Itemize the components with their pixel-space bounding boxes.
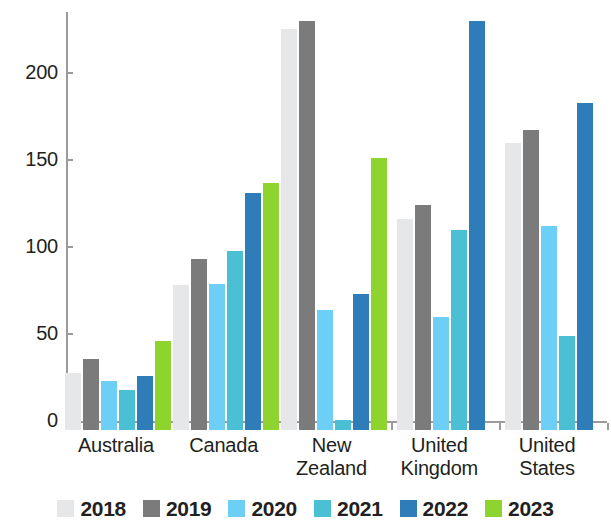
bar-group xyxy=(173,20,279,430)
bar[interactable] xyxy=(415,205,431,430)
bar-group-bars xyxy=(505,20,593,430)
legend-item[interactable]: 2022 xyxy=(400,498,469,519)
category-label: Canada xyxy=(170,434,278,457)
y-axis-tick-label-text: 0 xyxy=(2,410,58,430)
y-axis-tick-label-text: 100 xyxy=(2,236,58,256)
bar[interactable] xyxy=(299,21,315,430)
bar[interactable] xyxy=(371,158,387,430)
x-axis-tick xyxy=(607,423,609,430)
bar[interactable] xyxy=(245,193,261,430)
bar-group xyxy=(397,20,485,430)
bar-group xyxy=(65,20,171,430)
bar[interactable] xyxy=(101,381,117,430)
bar-group xyxy=(281,20,387,430)
category-label: United States xyxy=(493,434,601,480)
plot-area: 050100150200 xyxy=(0,0,611,430)
bar[interactable] xyxy=(469,21,485,430)
legend-swatch-icon xyxy=(143,500,160,517)
legend-label: 2022 xyxy=(423,498,469,519)
legend-item[interactable]: 2018 xyxy=(57,498,126,519)
bar[interactable] xyxy=(209,284,225,430)
bar[interactable] xyxy=(281,29,297,430)
y-axis-tick-label: 100 xyxy=(0,236,58,256)
y-axis-tick-label-text: 50 xyxy=(2,323,58,343)
bar[interactable] xyxy=(191,259,207,430)
category-label: Australia xyxy=(62,434,170,457)
legend-swatch-icon xyxy=(228,500,245,517)
x-axis-tick xyxy=(391,423,393,430)
bar-chart: 050100150200 AustraliaCanadaNew ZealandU… xyxy=(0,0,611,532)
y-axis-tick-label: 200 xyxy=(0,62,58,82)
legend-label: 2018 xyxy=(80,498,126,519)
bar-group-bars xyxy=(65,20,171,430)
chart-legend: 201820192020202120222023 xyxy=(0,498,611,519)
bar[interactable] xyxy=(559,336,575,430)
bar[interactable] xyxy=(137,376,153,430)
bar[interactable] xyxy=(173,285,189,430)
legend-label: 2019 xyxy=(166,498,212,519)
bar[interactable] xyxy=(263,183,279,430)
y-axis-tick-label-text: 150 xyxy=(2,149,58,169)
bar[interactable] xyxy=(227,251,243,430)
bar[interactable] xyxy=(541,226,557,430)
legend-item[interactable]: 2021 xyxy=(314,498,383,519)
bar[interactable] xyxy=(335,420,351,430)
y-axis-tick-label: 0 xyxy=(0,410,58,430)
category-label: United Kingdom xyxy=(385,434,493,480)
y-axis-tick-label: 50 xyxy=(0,323,58,343)
bar-group-bars xyxy=(173,20,279,430)
bar[interactable] xyxy=(83,359,99,430)
legend-item[interactable]: 2020 xyxy=(228,498,297,519)
category-label: New Zealand xyxy=(278,434,386,480)
bar[interactable] xyxy=(353,294,369,430)
bar-group-bars xyxy=(281,20,387,430)
bar[interactable] xyxy=(523,130,539,430)
y-axis-tick-label-text: 200 xyxy=(2,62,58,82)
legend-swatch-icon xyxy=(314,500,331,517)
legend-swatch-icon xyxy=(400,500,417,517)
legend-item[interactable]: 2023 xyxy=(485,498,554,519)
bar[interactable] xyxy=(155,341,171,430)
bar-group xyxy=(505,20,593,430)
bar[interactable] xyxy=(119,390,135,430)
legend-swatch-icon xyxy=(57,500,74,517)
bar[interactable] xyxy=(397,219,413,430)
y-axis-tick-label: 150 xyxy=(0,149,58,169)
legend-label: 2023 xyxy=(508,498,554,519)
bar[interactable] xyxy=(317,310,333,430)
bar[interactable] xyxy=(505,143,521,430)
bar[interactable] xyxy=(451,230,467,430)
legend-label: 2021 xyxy=(337,498,383,519)
bar-group-bars xyxy=(397,20,485,430)
bar[interactable] xyxy=(577,103,593,430)
legend-label: 2020 xyxy=(251,498,297,519)
legend-item[interactable]: 2019 xyxy=(143,498,212,519)
legend-swatch-icon xyxy=(485,500,502,517)
x-axis-tick xyxy=(499,423,501,430)
bar[interactable] xyxy=(65,373,81,430)
bar[interactable] xyxy=(433,317,449,430)
